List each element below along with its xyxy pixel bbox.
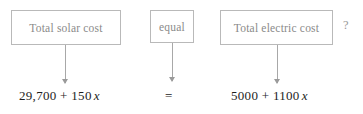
box-label-equal: equal [159, 21, 185, 33]
arrow-shaft [65, 45, 66, 83]
arrow-head [62, 79, 68, 84]
arrow-down-icon-equal [168, 43, 177, 81]
expression-equals-text: = [165, 88, 173, 103]
expression-electric-text: 5000 + 1100 [231, 88, 300, 103]
arrow-down-icon-electric [273, 45, 282, 83]
question-mark: ? [343, 19, 349, 32]
box-total-electric-cost: Total electric cost [220, 10, 333, 45]
arrow-head [274, 79, 280, 84]
arrow-shaft [172, 43, 173, 81]
box-total-solar-cost: Total solar cost [11, 10, 121, 45]
expression-solar-cost: 29,700 + 150x [19, 88, 100, 104]
expression-solar-variable: x [92, 88, 100, 103]
arrow-head [169, 77, 175, 82]
expression-solar-text: 29,700 + 150 [19, 88, 92, 103]
arrow-shaft [277, 45, 278, 83]
diagram-canvas: Total solar cost equal Total electric co… [0, 0, 363, 114]
arrow-down-icon-solar [61, 45, 70, 83]
box-label-total-solar-cost: Total solar cost [29, 22, 102, 34]
box-label-total-electric-cost: Total electric cost [234, 22, 319, 34]
expression-electric-cost: 5000 + 1100x [231, 88, 308, 104]
expression-equals-sign: = [165, 88, 173, 104]
expression-electric-variable: x [300, 88, 308, 103]
box-equal: equal [150, 10, 194, 43]
